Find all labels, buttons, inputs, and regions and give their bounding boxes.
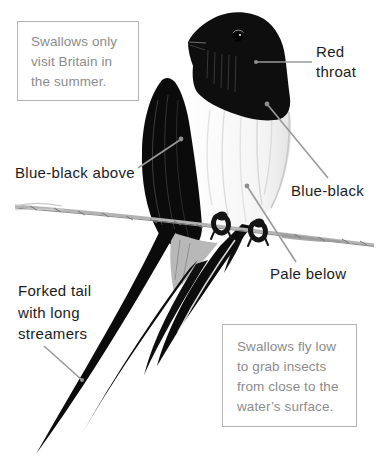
flight-callout-box: Swallows fly low to grab insects from cl… (222, 324, 357, 427)
label-text-line: throat (316, 62, 356, 82)
callout-text-line: the summer. (31, 72, 134, 92)
callout-text-line: from close to the (237, 377, 352, 397)
forked-tail-pointer (44, 346, 84, 382)
callout-text-line: Swallows only (31, 32, 134, 52)
red-throat-label: Red throat (316, 42, 356, 82)
forked-tail-label: Forked tail with long streamers (18, 280, 91, 345)
eye-icon (234, 33, 243, 42)
callout-text-line: Swallows fly low (237, 337, 352, 357)
label-text-line: with long (18, 302, 91, 324)
blue-black-label: Blue-black (291, 180, 364, 201)
diagram-page: Swallows only visit Britain in the summe… (0, 0, 379, 465)
pale-below-label: Pale below (270, 263, 346, 284)
callout-text-line: visit Britain in (31, 52, 134, 72)
callout-text-line: water’s surface. (237, 397, 352, 417)
summer-callout-box: Swallows only visit Britain in the summe… (17, 21, 139, 101)
label-text-line: streamers (18, 323, 91, 345)
label-text-line: Forked tail (18, 280, 91, 302)
callout-text-line: to grab insects (237, 357, 352, 377)
blue-black-above-label: Blue-black above (15, 162, 135, 183)
label-text-line: Red (316, 42, 356, 62)
